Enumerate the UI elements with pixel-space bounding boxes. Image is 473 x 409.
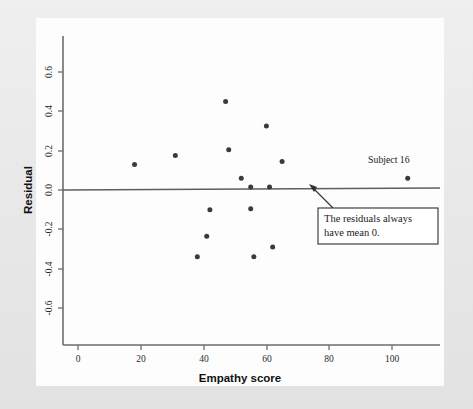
data-point	[204, 234, 209, 239]
data-point	[251, 254, 256, 259]
data-point	[248, 206, 253, 211]
y-tick-label: 0.2	[44, 145, 54, 157]
data-point	[195, 254, 200, 259]
data-point	[280, 159, 285, 164]
data-point	[223, 99, 228, 104]
data-point	[173, 153, 178, 158]
y-tick-label: -0.2	[44, 221, 54, 236]
y-axis-tick-labels: 0.6 0.4 0.2 0.0 -0.2 -0.4 -0.6	[44, 66, 54, 316]
data-point	[248, 185, 253, 190]
x-tick-label: 60	[262, 354, 272, 364]
y-tick-label: 0.4	[44, 105, 54, 117]
x-tick-label: 100	[385, 354, 400, 364]
x-tick-label: 80	[324, 354, 334, 364]
y-tick-label: -0.4	[44, 261, 54, 276]
data-point	[405, 176, 410, 181]
data-point	[207, 207, 212, 212]
data-point	[132, 162, 137, 167]
scatter-plot: 0.6 0.4 0.2 0.0 -0.2 -0.4 -0.6 0 20	[0, 0, 473, 409]
y-tick-label: 0.0	[44, 184, 54, 196]
x-axis-title: Empathy score	[199, 372, 281, 384]
data-point	[226, 147, 231, 152]
y-axis-title: Residual	[22, 166, 34, 214]
data-point	[239, 176, 244, 181]
data-point	[264, 124, 269, 129]
mean-zero-callout-line-1: The residuals always	[324, 213, 412, 224]
data-point	[267, 185, 272, 190]
scatter-plot-svg: 0.6 0.4 0.2 0.0 -0.2 -0.4 -0.6 0 20	[0, 0, 473, 409]
subject-16-label: Subject 16	[368, 154, 410, 165]
x-axis-tick-labels: 0 20 40 60 80 100	[76, 354, 400, 364]
x-tick-label: 20	[136, 354, 146, 364]
callout-leader	[309, 184, 333, 208]
x-tick-label: 40	[199, 354, 209, 364]
data-point	[270, 245, 275, 250]
y-tick-label: 0.6	[44, 66, 54, 78]
figure-page: 0.6 0.4 0.2 0.0 -0.2 -0.4 -0.6 0 20	[0, 0, 473, 409]
x-tick-label: 0	[76, 354, 81, 364]
mean-zero-callout-line-2: have mean 0.	[324, 227, 380, 238]
y-tick-label: -0.6	[44, 300, 54, 315]
